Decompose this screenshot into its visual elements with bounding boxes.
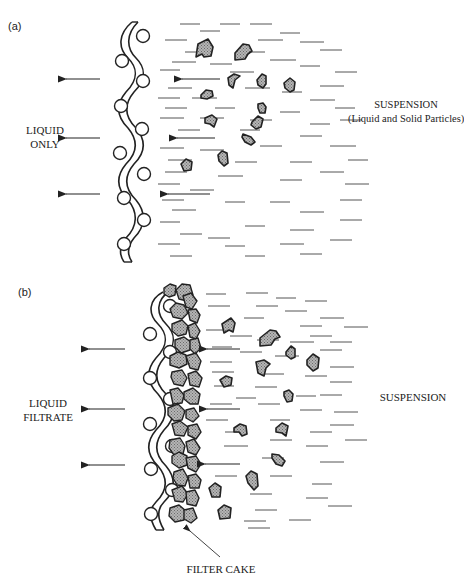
liquid-label: LIQUID	[20, 123, 70, 137]
panel-a-solid-particles	[181, 39, 295, 171]
panel-b-suspension-label: SUSPENSION	[378, 390, 448, 404]
panel-a-left-label: LIQUID ONLY	[20, 123, 70, 151]
panel-a-liquid-dashes	[158, 24, 369, 256]
filtrate-label: FILTRATE	[20, 410, 76, 424]
filter-cake-label: FILTER CAKE	[180, 562, 262, 576]
panel-a-right-label: SUSPENSION (Liquid and Solid Particles)	[348, 98, 464, 126]
panel-b-tag: (b)	[18, 286, 31, 298]
only-label: ONLY	[20, 137, 70, 151]
suspension-label: SUSPENSION	[348, 98, 464, 112]
liquid-label: LIQUID	[20, 396, 76, 410]
panel-b-solid-particles	[209, 318, 319, 519]
suspension-description: (Liquid and Solid Particles)	[348, 112, 464, 126]
panel-a-tag: (a)	[8, 20, 21, 32]
filter-cake-pointer	[190, 531, 220, 557]
panel-b-left-label: LIQUID FILTRATE	[20, 396, 76, 424]
